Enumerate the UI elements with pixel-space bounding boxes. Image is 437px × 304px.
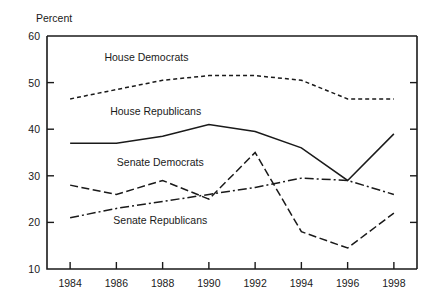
series-label: Senate Republicans bbox=[113, 214, 207, 226]
series-label: Senate Democrats bbox=[117, 156, 204, 168]
x-tick-label: 1986 bbox=[105, 277, 129, 289]
y-axis-ticks: 102030405060 bbox=[28, 30, 417, 275]
series-label: House Republicans bbox=[110, 105, 201, 117]
chart-container: Percent 102030405060 1984198619881990199… bbox=[0, 0, 437, 304]
x-tick-label: 1998 bbox=[382, 277, 406, 289]
x-axis-ticks: 19841986198819901992199419961998 bbox=[58, 262, 405, 289]
y-axis-title: Percent bbox=[36, 12, 72, 24]
series-line bbox=[70, 178, 394, 218]
x-tick-label: 1994 bbox=[290, 277, 314, 289]
series-line bbox=[70, 76, 394, 99]
y-tick-label: 50 bbox=[28, 77, 40, 89]
x-tick-label: 1992 bbox=[243, 277, 267, 289]
x-tick-label: 1990 bbox=[197, 277, 221, 289]
series-label: House Democrats bbox=[104, 51, 188, 63]
line-chart: Percent 102030405060 1984198619881990199… bbox=[0, 0, 437, 304]
series-line bbox=[70, 125, 394, 181]
y-tick-label: 30 bbox=[28, 170, 40, 182]
y-tick-label: 10 bbox=[28, 263, 40, 275]
y-tick-label: 20 bbox=[28, 216, 40, 228]
series-labels: House DemocratsHouse RepublicansSenate D… bbox=[104, 51, 207, 226]
x-tick-label: 1996 bbox=[336, 277, 360, 289]
axis-frame bbox=[47, 36, 417, 269]
x-tick-label: 1984 bbox=[58, 277, 82, 289]
y-tick-label: 40 bbox=[28, 123, 40, 135]
y-tick-label: 60 bbox=[28, 30, 40, 42]
x-tick-label: 1988 bbox=[151, 277, 175, 289]
